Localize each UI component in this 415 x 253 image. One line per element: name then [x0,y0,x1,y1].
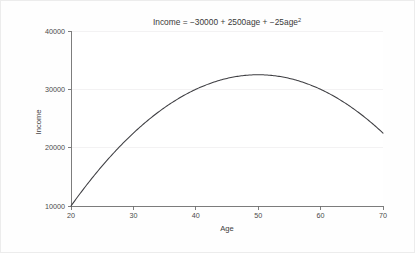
x-tick-label-20: 20 [67,211,75,220]
chart-title-group: Income = −30000 + 2500age + −25age2 [153,17,301,27]
y-tick-label-40000: 40000 [45,27,65,36]
y-tick-label-20000: 20000 [45,143,65,152]
x-tick-label-30: 30 [129,211,137,220]
income-age-quadratic-plot: 10000200003000040000 203040506070 Income… [0,0,415,253]
x-tick-label-40: 40 [192,211,200,220]
y-tick-label-30000: 30000 [45,85,65,94]
x-tick-label-50: 50 [254,211,262,220]
x-tick-label-60: 60 [317,211,325,220]
y-axis-title: Income [34,110,43,135]
chart-title-text: Income = −30000 + 2500age + −25age [153,17,298,27]
x-axis-title: Age [220,224,234,233]
plot-area-background [71,31,383,206]
y-tick-label-10000: 10000 [45,202,65,211]
chart-figure: 10000200003000040000 203040506070 Income… [0,0,415,253]
y-axis-ticks: 10000200003000040000 [45,27,71,211]
chart-title-exponent: 2 [298,17,301,23]
x-axis-ticks: 203040506070 [67,206,387,220]
x-tick-label-70: 70 [379,211,387,220]
